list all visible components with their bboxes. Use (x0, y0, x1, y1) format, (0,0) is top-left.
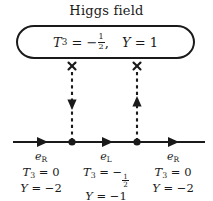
y-value-left: −2 (45, 181, 62, 195)
fermion-arrow-left (37, 137, 48, 147)
t3-value-right: 0 (184, 165, 191, 179)
higgs-propagator-left (67, 72, 76, 142)
t3-row-right: T3 = 0 (134, 165, 212, 182)
fermion-arrow-middle (102, 137, 113, 147)
y-row-right: Y = −2 (134, 181, 212, 196)
x-mark-icon-right (134, 63, 141, 70)
segment-label-right: eR T3 = 0 Y = −2 (134, 150, 212, 197)
particle-sub-right: R (173, 155, 179, 164)
particle-label-right: eR (134, 150, 212, 165)
vertex-dot-right (133, 138, 140, 145)
higgs-field-diagram: Higgs field T3 = −12,Y = 1 (0, 0, 213, 201)
arrowhead-up-icon (132, 96, 141, 107)
x-mark-icon-left (69, 63, 76, 70)
t3-value-left: 0 (52, 165, 59, 179)
particle-sub-left: R (41, 155, 47, 164)
y-value-middle: −1 (110, 189, 127, 201)
vertex-dot-left (68, 138, 75, 145)
t3-sign-middle: − (113, 165, 123, 179)
y-value-right: −2 (177, 181, 194, 195)
particle-sub-middle: L (107, 155, 112, 164)
arrowhead-down-icon (67, 100, 76, 111)
higgs-propagator-right (132, 72, 141, 142)
fermion-arrow-right (168, 137, 179, 147)
segment-labels: eR T3 = 0 Y = −2 eL T3 = −12 Y = −1 eR T… (0, 150, 213, 198)
t3-fraction-middle: 12 (122, 173, 129, 189)
